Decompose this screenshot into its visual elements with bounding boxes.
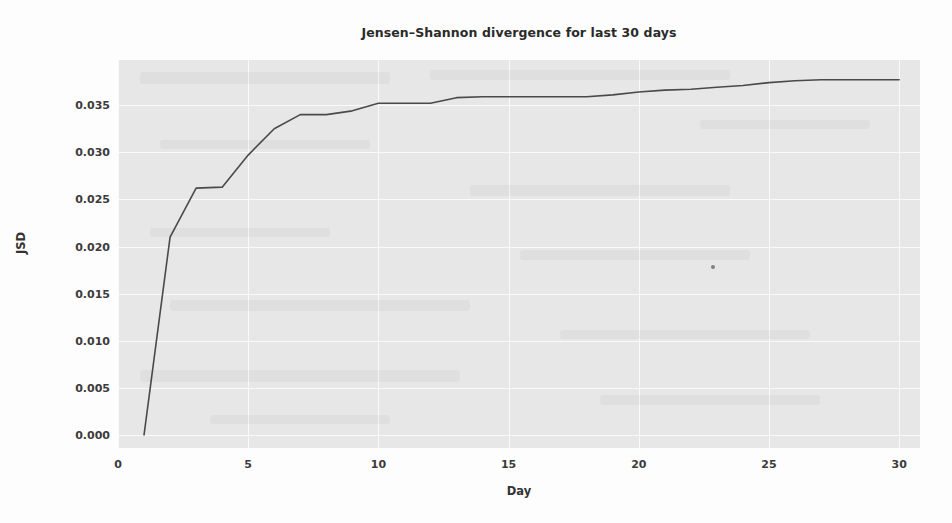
- series-line-jsd: [118, 60, 920, 448]
- y-axis-tick-labels: 0.0000.0050.0100.0150.0200.0250.0300.035: [40, 60, 110, 448]
- x-tick-25: 25: [739, 458, 799, 471]
- y-tick-0.035: 0.035: [48, 99, 110, 112]
- y-axis-label: JSD: [14, 232, 28, 254]
- x-axis-label: Day: [118, 484, 920, 498]
- x-tick-15: 15: [479, 458, 539, 471]
- chart-figure: Jensen–Shannon divergence for last 30 da…: [0, 0, 952, 523]
- chart-title: Jensen–Shannon divergence for last 30 da…: [118, 25, 920, 40]
- y-tick-0.025: 0.025: [48, 193, 110, 206]
- x-axis-tick-labels: 051015202530: [118, 458, 920, 478]
- y-tick-0.015: 0.015: [48, 287, 110, 300]
- y-tick-0.010: 0.010: [48, 334, 110, 347]
- x-tick-0: 0: [88, 458, 148, 471]
- x-tick-20: 20: [609, 458, 669, 471]
- y-tick-0.030: 0.030: [48, 146, 110, 159]
- y-tick-0.005: 0.005: [48, 381, 110, 394]
- x-tick-30: 30: [869, 458, 929, 471]
- plot-area: [118, 60, 920, 448]
- y-tick-0.020: 0.020: [48, 240, 110, 253]
- y-tick-0.000: 0.000: [48, 428, 110, 441]
- x-tick-5: 5: [218, 458, 278, 471]
- x-tick-10: 10: [348, 458, 408, 471]
